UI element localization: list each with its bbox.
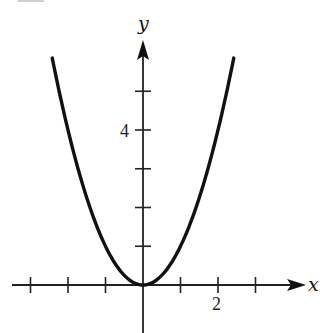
y-tick-label-4: 4 [120,121,129,141]
x-tick-label-2: 2 [212,294,221,314]
y-axis [135,40,151,333]
x-axis-label: x [308,273,319,295]
y-axis-label: y [137,12,149,34]
parabola-chart: y x 2 4 [0,0,320,333]
